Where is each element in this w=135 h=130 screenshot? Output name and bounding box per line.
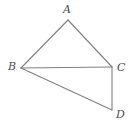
segment-ac bbox=[68, 20, 112, 67]
vertex-label-b: B bbox=[8, 61, 16, 72]
vertex-label-c: C bbox=[117, 62, 125, 73]
segment-bc bbox=[21, 67, 112, 68]
segment-group bbox=[21, 20, 112, 110]
geometry-figure: A B C D bbox=[0, 0, 135, 130]
figure-canvas bbox=[0, 0, 135, 130]
segment-ab bbox=[21, 20, 68, 68]
segment-bd bbox=[21, 68, 112, 110]
vertex-label-d: D bbox=[116, 109, 125, 120]
vertex-label-a: A bbox=[63, 4, 71, 15]
